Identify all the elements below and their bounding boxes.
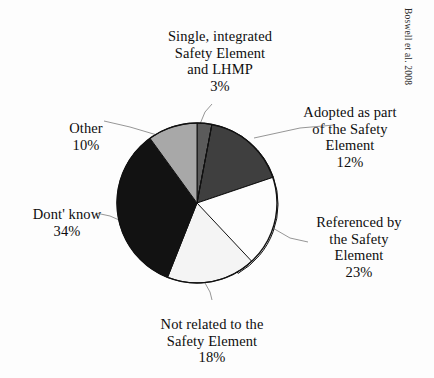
pie-label-other-text: Other: [69, 120, 103, 136]
pie-chart-figure: Single, integrated Safety Element and LH…: [0, 0, 434, 378]
pie-label-not-related-text: Not related to the Safety Element: [161, 316, 264, 348]
pie-label-other-percent: 10%: [40, 137, 132, 153]
pie-label-referenced-percent: 23%: [292, 264, 426, 280]
leader-line-not-related: [205, 283, 212, 300]
pie-label-not-related-percent: 18%: [122, 349, 302, 365]
pie-label-dont-know-text: Dont' know: [33, 206, 101, 222]
pie-label-referenced: Referenced by the Safety Element 23%: [292, 198, 426, 296]
pie-label-single-integrated-text: Single, integrated Safety Element and LH…: [168, 28, 272, 77]
pie-label-adopted: Adopted as part of the Safety Element 12…: [280, 88, 420, 186]
pie-label-not-related: Not related to the Safety Element 18%: [122, 300, 302, 378]
pie-label-referenced-text: Referenced by the Safety Element: [316, 214, 401, 263]
pie-label-other: Other 10%: [40, 104, 132, 170]
pie-label-adopted-text: Adopted as part of the Safety Element: [303, 104, 396, 153]
pie-label-dont-know: Dont' know 34%: [6, 190, 128, 256]
pie-label-dont-know-percent: 34%: [6, 223, 128, 239]
figure-credit: Boswell et al. 2008: [403, 8, 413, 104]
pie-label-adopted-percent: 12%: [280, 154, 420, 170]
